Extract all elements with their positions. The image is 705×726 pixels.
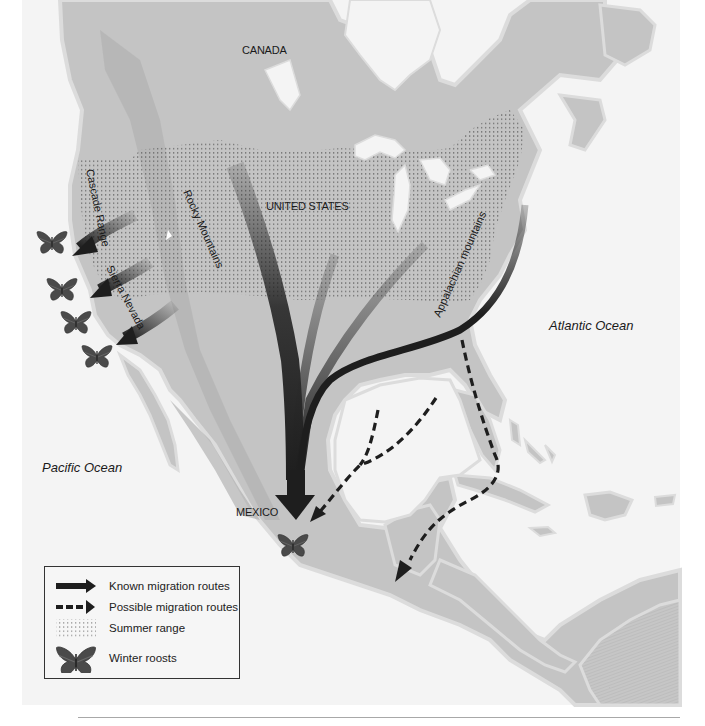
legend-item-possible-routes: Possible migration routes: [45, 596, 239, 618]
legend-item-known-routes: Known migration routes: [45, 575, 239, 597]
legend-label: Possible migration routes: [109, 600, 238, 614]
legend-label: Winter roosts: [109, 651, 177, 665]
dashed-arrow-icon: [54, 596, 98, 618]
legend: Known migration routes Possible migratio…: [44, 566, 240, 679]
legend-item-summer-range: Summer range: [45, 617, 239, 639]
label-canada: CANADA: [242, 44, 288, 56]
label-mexico: MEXICO: [236, 506, 279, 518]
legend-item-winter-roosts: Winter roosts: [45, 643, 239, 673]
label-pacific-ocean: Pacific Ocean: [42, 460, 122, 475]
label-united-states: UNITED STATES: [266, 200, 349, 212]
dot-pattern-icon: [54, 617, 98, 639]
label-atlantic-ocean: Atlantic Ocean: [548, 318, 634, 333]
bottom-divider: [78, 717, 680, 718]
solid-arrow-icon: [54, 575, 98, 597]
legend-label: Summer range: [109, 621, 185, 635]
legend-label: Known migration routes: [109, 579, 230, 593]
butterfly-icon: [54, 643, 98, 673]
